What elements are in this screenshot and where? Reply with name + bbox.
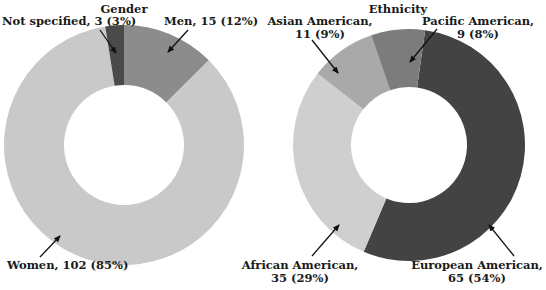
- ethnicity-chart-title: Ethnicity: [369, 2, 428, 16]
- label-european-american-line1: European American,: [411, 258, 543, 272]
- label-african-american-line2: 35 (29%): [271, 271, 329, 285]
- slice-african-american: [293, 74, 386, 252]
- gender-donut-chart: Gender Not specified, 3 (3%) Men, 15 (12…: [2, 2, 258, 272]
- label-asian-american-line1: Asian American,: [266, 14, 372, 28]
- label-asian-american-line2: 11 (9%): [295, 27, 345, 41]
- label-not-specified: Not specified, 3 (3%): [2, 14, 136, 28]
- arrow-european-american: [489, 225, 514, 256]
- label-women: Women, 102 (85%): [6, 258, 128, 272]
- label-men: Men, 15 (12%): [164, 14, 258, 28]
- label-pacific-american-line2: 9 (8%): [457, 27, 499, 41]
- label-african-american-line1: African American,: [241, 258, 359, 272]
- label-pacific-american-line1: Pacific American,: [422, 14, 534, 28]
- donut-charts: Gender Not specified, 3 (3%) Men, 15 (12…: [0, 0, 546, 290]
- ethnicity-donut-chart: Ethnicity Asian American, 11 (9%) Pacifi…: [241, 2, 543, 285]
- label-european-american-line2: 65 (54%): [448, 271, 506, 285]
- arrow-african-american: [312, 225, 339, 256]
